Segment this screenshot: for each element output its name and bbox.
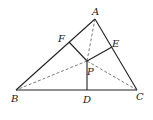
label-c: C (136, 91, 144, 102)
label-b: B (10, 93, 18, 104)
geometry-diagram: A B C D E F P (0, 0, 153, 120)
label-p: P (86, 66, 94, 77)
segment-pf (69, 42, 87, 61)
label-a: A (91, 6, 99, 17)
segment-pe (87, 47, 112, 61)
segment-pb-dashed (16, 61, 87, 90)
label-f: F (57, 33, 66, 44)
label-d: D (82, 94, 91, 105)
side-ca (95, 19, 137, 90)
label-e: E (111, 38, 120, 49)
segment-pc-dashed (87, 61, 137, 90)
side-ab (16, 19, 95, 90)
